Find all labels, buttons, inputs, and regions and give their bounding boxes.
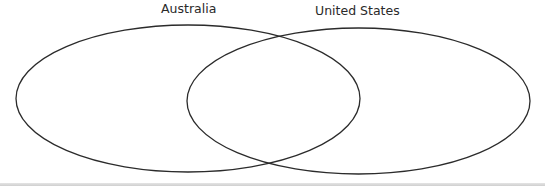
- united-states-ellipse: [187, 28, 530, 174]
- venn-diagram: [0, 0, 545, 186]
- australia-ellipse: [16, 25, 360, 172]
- united-states-label: United States: [315, 5, 400, 18]
- bottom-divider: [0, 183, 545, 186]
- australia-label: Australia: [161, 3, 216, 16]
